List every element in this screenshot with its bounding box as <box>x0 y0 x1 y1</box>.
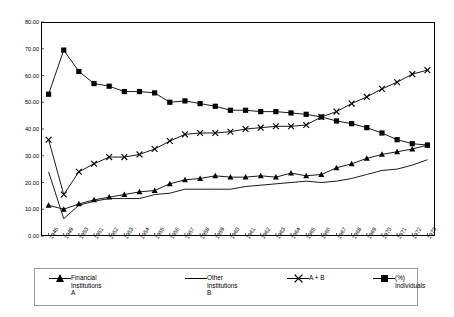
data-point-marker <box>258 109 263 114</box>
data-point-marker <box>273 109 278 114</box>
series-1 <box>46 142 431 212</box>
series-4 <box>46 47 430 147</box>
data-point-marker <box>137 89 142 94</box>
data-point-marker <box>364 125 369 130</box>
chart-legend: FinancialInstitutionsAOtherInstitutionsB… <box>34 268 418 306</box>
legend-label-line: (%) <box>395 274 425 282</box>
data-point-marker <box>410 141 415 146</box>
data-point-marker <box>91 81 96 86</box>
data-point-marker <box>304 112 309 117</box>
data-point-marker <box>379 130 384 135</box>
data-point-marker <box>167 100 172 105</box>
legend-label: A + B <box>309 274 324 282</box>
data-point-marker <box>107 84 112 89</box>
legend-marker-none-icon <box>185 274 207 283</box>
legend-item: OtherInstitutionsB <box>185 274 238 297</box>
data-point-marker <box>349 121 354 126</box>
data-point-marker <box>228 108 233 113</box>
data-point-marker <box>213 104 218 109</box>
data-point-marker <box>258 173 264 179</box>
data-point-marker <box>212 173 218 179</box>
data-point-marker <box>425 142 430 147</box>
legend-label-line: Institutions <box>207 282 238 290</box>
x-axis: 1945194919501951195219531954195519561957… <box>41 237 435 263</box>
data-point-marker <box>46 202 52 208</box>
legend-item: (%)Individuals <box>373 274 425 289</box>
legend-label: (%)Individuals <box>395 274 425 289</box>
series-line <box>49 50 428 145</box>
data-point-marker <box>288 110 293 115</box>
legend-marker-triangle-icon <box>49 274 71 283</box>
series-3 <box>46 67 431 197</box>
legend-marker-square-icon <box>373 274 395 283</box>
series-2 <box>49 160 428 219</box>
series-line <box>49 70 428 194</box>
data-point-marker <box>76 69 81 74</box>
legend-item: A + B <box>287 274 324 283</box>
legend-label-line: A <box>71 289 102 297</box>
data-point-marker <box>152 187 158 193</box>
legend-label: OtherInstitutionsB <box>207 274 238 297</box>
data-point-marker <box>198 101 203 106</box>
series-line <box>49 160 428 219</box>
data-point-marker <box>288 170 294 176</box>
data-point-marker <box>152 90 157 95</box>
legend-item: FinancialInstitutionsA <box>49 274 102 297</box>
legend-label: FinancialInstitutionsA <box>71 274 102 297</box>
data-point-marker <box>122 89 127 94</box>
legend-marker-x-icon <box>287 274 309 283</box>
data-point-marker <box>243 108 248 113</box>
legend-label-line: Financial <box>71 274 102 282</box>
data-point-marker <box>46 92 51 97</box>
legend-label-line: Individuals <box>395 282 425 290</box>
data-point-marker <box>319 114 324 119</box>
data-point-marker <box>182 98 187 103</box>
data-point-marker <box>61 47 66 52</box>
data-point-marker <box>334 118 339 123</box>
legend-label-line: B <box>207 289 238 297</box>
chart-page: 0.0010.0020.0030.0040.0050.0060.0070.008… <box>0 0 454 317</box>
data-point-marker <box>318 171 324 177</box>
legend-label-line: Institutions <box>71 282 102 290</box>
legend-label-line: A + B <box>309 274 324 282</box>
legend-label-line: Other <box>207 274 238 282</box>
data-point-marker <box>395 137 400 142</box>
